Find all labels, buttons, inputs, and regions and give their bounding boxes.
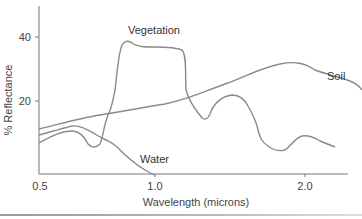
reflectance-chart: 40 20 0.5 1.0 2.0 Wavelength (microns) %… [0,0,362,219]
bottom-divider [0,214,362,216]
x-tick-label-0.5: 0.5 [32,180,47,192]
soil-label: Soil [327,70,345,82]
soil-line [39,63,362,129]
y-tick-label-20: 20 [19,95,31,107]
y-axis-label: % Reflectance [2,65,14,136]
vegetation-line [39,41,335,150]
water-label: Water [140,153,169,165]
water-line [39,126,155,175]
x-axis-label: Wavelength (microns) [143,196,250,208]
x-tick-label-2.0: 2.0 [297,180,312,192]
vegetation-label: Vegetation [128,24,180,36]
x-tick-label-1.0: 1.0 [147,180,162,192]
y-tick-label-40: 40 [19,31,31,43]
